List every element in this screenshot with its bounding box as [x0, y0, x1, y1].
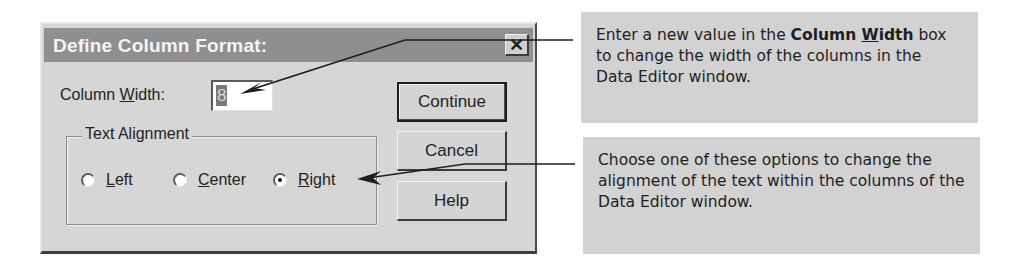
- dialog-title: Define Column Format:: [53, 35, 267, 57]
- radio-center-rest: enter: [210, 171, 246, 188]
- radio-left[interactable]: Left: [81, 171, 133, 189]
- column-width-label-suffix: idth:: [135, 86, 165, 103]
- radio-label-center[interactable]: Center: [198, 171, 246, 189]
- radio-button-left[interactable]: [81, 173, 95, 187]
- radio-left-accelerator: L: [106, 171, 115, 188]
- callout-1-bold-prefix: Column: [791, 26, 862, 44]
- radio-button-right[interactable]: [273, 173, 287, 187]
- callout-1-bold: Column Width: [791, 26, 914, 44]
- column-width-accelerator: W: [120, 86, 135, 103]
- radio-right[interactable]: Right: [273, 171, 335, 189]
- continue-button[interactable]: Continue: [397, 82, 507, 122]
- text-alignment-group: Text Alignment Left Center Right: [66, 136, 377, 225]
- callout-1-bold-accel: W: [862, 26, 879, 44]
- radio-center[interactable]: Center: [173, 171, 246, 189]
- text-alignment-legend: Text Alignment: [82, 125, 192, 143]
- radio-button-center[interactable]: [173, 173, 187, 187]
- dialog-titlebar[interactable]: Define Column Format: ✕: [44, 28, 533, 62]
- close-button[interactable]: ✕: [505, 34, 529, 56]
- radio-center-accelerator: C: [198, 171, 210, 188]
- column-width-label: Column Width:: [60, 86, 165, 104]
- callout-column-width: Enter a new value in the Column Width bo…: [581, 12, 978, 123]
- radio-right-rest: ight: [310, 171, 336, 188]
- define-column-format-dialog: Define Column Format: ✕ Column Width: 8 …: [40, 22, 537, 254]
- radio-right-accelerator: R: [298, 171, 310, 188]
- help-button[interactable]: Help: [397, 181, 507, 221]
- callout-1-text-pre: Enter a new value in the: [596, 26, 791, 44]
- column-width-label-prefix: Column: [60, 86, 120, 103]
- radio-label-right[interactable]: Right: [298, 171, 335, 189]
- column-width-input[interactable]: 8: [211, 80, 273, 111]
- close-x-icon: ✕: [509, 36, 524, 54]
- column-width-value: 8: [216, 85, 227, 106]
- radio-left-rest: eft: [115, 171, 133, 188]
- cancel-button[interactable]: Cancel: [397, 131, 507, 171]
- callout-text-alignment: Choose one of these options to change th…: [583, 137, 980, 254]
- radio-label-left[interactable]: Left: [106, 171, 133, 189]
- callout-2-text: Choose one of these options to change th…: [598, 151, 965, 211]
- callout-1-bold-suffix: idth: [879, 26, 914, 44]
